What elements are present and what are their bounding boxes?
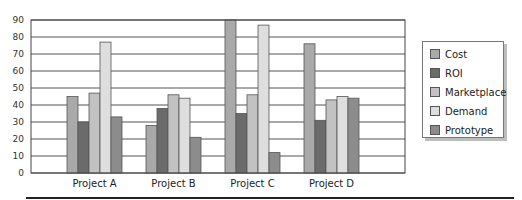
y-tick-label: 90 — [13, 15, 25, 25]
x-category-label: Project C — [230, 178, 274, 189]
legend-swatch-prototype — [430, 125, 440, 135]
bar-cost — [304, 44, 315, 173]
legend-label: ROI — [445, 68, 463, 79]
legend-item-cost: Cost — [430, 47, 467, 61]
y-tick-label: 60 — [13, 66, 25, 76]
bar-cost — [146, 125, 157, 173]
x-axis-labels: Project AProject BProject CProject D — [72, 178, 354, 189]
legend-label: Marketplace — [445, 87, 506, 98]
x-category-label: Project D — [309, 178, 354, 189]
bar-prototype — [269, 153, 280, 173]
bar-roi — [236, 114, 247, 174]
legend-item-roi: ROI — [430, 66, 463, 80]
y-tick-label: 40 — [13, 100, 25, 110]
y-tick-label: 20 — [13, 134, 25, 144]
bar-prototype — [348, 98, 359, 173]
bar-demand — [100, 42, 111, 173]
legend: Cost ROI Marketplace Demand Prototype — [422, 41, 504, 138]
bar-demand — [337, 97, 348, 174]
y-tick-label: 50 — [13, 83, 25, 93]
bar-marketplace — [326, 100, 337, 173]
bar-demand — [258, 25, 269, 173]
bar-roi — [315, 120, 326, 173]
y-tick-label: 70 — [13, 49, 25, 59]
legend-swatch-cost — [430, 49, 440, 59]
bar-marketplace — [168, 95, 179, 173]
bar-demand — [179, 98, 190, 173]
x-category-label: Project A — [72, 178, 116, 189]
legend-item-marketplace: Marketplace — [430, 85, 506, 99]
bar-roi — [157, 108, 168, 173]
legend-swatch-demand — [430, 106, 440, 116]
y-tick-label: 30 — [13, 117, 25, 127]
y-tick-label: 80 — [13, 32, 25, 42]
bar-cost — [225, 20, 236, 173]
bar-roi — [78, 122, 89, 173]
legend-swatch-marketplace — [430, 87, 440, 97]
y-axis-ticks: 0102030405060708090 — [13, 15, 25, 178]
bar-prototype — [190, 137, 201, 173]
y-tick-label: 0 — [18, 168, 24, 178]
x-category-label: Project B — [151, 178, 195, 189]
legend-label: Demand — [445, 106, 487, 117]
y-tick-label: 10 — [13, 151, 25, 161]
bar-marketplace — [247, 95, 258, 173]
bar-cost — [67, 97, 78, 174]
bar-prototype — [111, 117, 122, 173]
bars — [67, 20, 359, 173]
legend-label: Prototype — [445, 125, 493, 136]
legend-item-demand: Demand — [430, 104, 487, 118]
legend-item-prototype: Prototype — [430, 123, 493, 137]
legend-label: Cost — [445, 49, 467, 60]
bottom-rule — [26, 197, 514, 199]
legend-swatch-roi — [430, 68, 440, 78]
bar-marketplace — [89, 93, 100, 173]
